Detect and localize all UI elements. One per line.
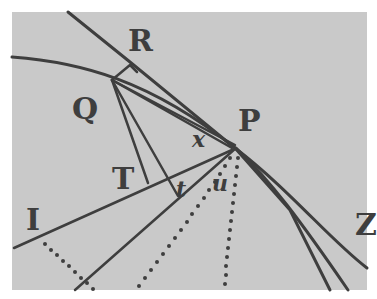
segment-QR xyxy=(112,65,137,80)
curve-arc-outer xyxy=(12,57,367,268)
label-P: P xyxy=(238,106,261,136)
label-R: R xyxy=(128,26,153,56)
label-Q: Q xyxy=(72,94,98,124)
label-x: x xyxy=(192,128,205,150)
label-t: t xyxy=(176,178,186,200)
label-Z: Z xyxy=(355,210,377,240)
dotted-line-I xyxy=(43,242,95,291)
label-T: T xyxy=(112,164,134,194)
label-u: u xyxy=(212,172,228,194)
label-I: I xyxy=(26,205,40,235)
